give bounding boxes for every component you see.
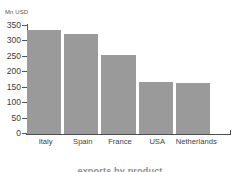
bottom-caption-clipped: exports by product — [0, 166, 240, 172]
y-axis-tick-label: 50 — [0, 114, 21, 123]
x-axis-labels: ItalySpainFranceUSANetherlands — [27, 136, 213, 148]
bar — [27, 30, 61, 134]
x-axis-label: Italy — [27, 136, 64, 147]
y-axis-tick-label: 150 — [0, 83, 21, 92]
y-axis-tick-label: 200 — [0, 67, 21, 76]
x-axis-label: Spain — [64, 136, 101, 147]
y-axis-unit-label: Mn USD — [5, 9, 28, 15]
bottom-caption-text: exports by product — [0, 166, 240, 172]
y-axis-tick-label: 250 — [0, 52, 21, 61]
x-axis-label: France — [101, 136, 138, 147]
y-axis-tick-label: 100 — [0, 98, 21, 107]
bar — [64, 34, 98, 134]
bar — [139, 82, 173, 134]
bar-series — [27, 25, 213, 134]
bar — [101, 55, 135, 134]
bar-chart: Mn USD 050100150200250300350 ItalySpainF… — [0, 0, 240, 172]
y-axis-tick-label: 350 — [0, 21, 21, 30]
x-axis-label: Netherlands — [176, 136, 213, 147]
plot-area — [27, 25, 213, 134]
bar — [176, 83, 210, 134]
x-axis-end-tick — [230, 130, 231, 135]
x-axis-label: USA — [139, 136, 176, 147]
y-axis-tick-label: 300 — [0, 36, 21, 45]
y-axis-tick-label: 0 — [0, 129, 21, 138]
